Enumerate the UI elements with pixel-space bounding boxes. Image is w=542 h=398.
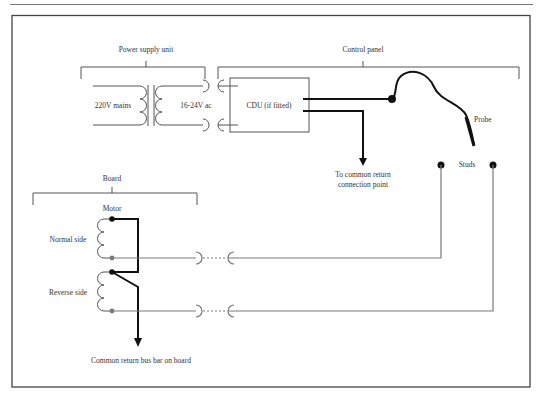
control-panel-bracket [218,61,519,79]
transformer-secondary-coil [156,86,162,125]
control-panel-label: Control panel [342,45,383,54]
reverse-side-label: Reverse side [49,288,88,297]
normal-side-coil [98,219,113,258]
cdu-return-wire [303,111,363,160]
psu-socket-bottom [203,119,209,131]
mains-label: 220V mains [95,101,131,110]
secondary-voltage-label: 16-24V ac [180,101,212,110]
transformer-primary-coil [140,86,147,125]
probe-label: Probe [474,115,492,124]
motor-common-link [112,219,138,272]
motor-label: Motor [103,204,122,213]
wiring-diagram: Power supply unit 220V mains 16-24V ac C… [0,0,542,398]
reverse-side-coil [98,272,113,311]
normal-plug-board [196,252,202,264]
reverse-terminal-top [109,269,115,275]
diagram-frame [12,16,530,388]
probe-cable [392,72,474,145]
motor-common-return [112,272,138,340]
normal-side-label: Normal side [50,235,88,244]
return-label-line1: To common return [335,170,391,179]
bus-bar-label: Common return bus bar on board [91,356,191,365]
cdu-label: CDU (if fitted) [247,101,292,110]
power-supply-label: Power supply unit [119,45,175,54]
studs-label: Studs [459,160,476,169]
psu-socket-top [203,80,209,92]
probe-tip [466,117,474,146]
bus-bar-arrowhead [134,338,142,347]
return-label-line2: connection point [338,180,389,189]
board-bracket [33,187,197,205]
reverse-plug-board [196,305,202,317]
board-label: Board [103,174,122,183]
normal-terminal-top [109,216,115,222]
return-arrowhead [359,158,367,166]
power-supply-bracket [81,61,205,79]
